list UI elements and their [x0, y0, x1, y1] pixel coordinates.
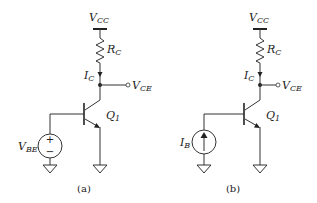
ground-icon — [43, 165, 57, 173]
resistor-b — [256, 38, 264, 63]
transistor-q1-a — [84, 85, 100, 165]
ground-icon — [93, 165, 107, 173]
ib-label: IB — [179, 136, 190, 150]
plus-sign: + — [46, 134, 54, 145]
caption-b: (b) — [226, 183, 240, 194]
caption-a: (a) — [77, 183, 91, 194]
circuit-diagram: VCC RC IC VCE Q1 + − VBE (a) — [0, 0, 317, 203]
transistor-q1-b — [244, 85, 260, 165]
output-terminal-a — [126, 83, 130, 87]
vcc-label-b: VCC — [249, 11, 269, 25]
q1-label-b: Q1 — [266, 109, 280, 123]
resistor-a — [96, 38, 104, 63]
ic-label-a: IC — [83, 69, 94, 83]
vcc-label-a: VCC — [89, 11, 109, 25]
q1-label-a: Q1 — [106, 109, 120, 123]
current-arrow-a — [98, 72, 103, 77]
minus-sign: − — [46, 146, 54, 157]
output-terminal-b — [276, 83, 280, 87]
ground-icon — [253, 165, 267, 173]
circuit-a: VCC RC IC VCE Q1 + − VBE (a) — [18, 11, 152, 194]
rc-label-b: RC — [266, 43, 281, 57]
current-arrow-b — [258, 72, 263, 77]
vce-label-a: VCE — [132, 79, 152, 93]
vce-label-b: VCE — [282, 79, 302, 93]
circuit-b: VCC RC IC VCE Q1 IB (b) — [179, 11, 302, 194]
rc-label-a: RC — [106, 43, 121, 57]
ic-label-b: IC — [243, 69, 254, 83]
vbe-label: VBE — [18, 140, 38, 154]
ground-icon — [197, 165, 211, 173]
